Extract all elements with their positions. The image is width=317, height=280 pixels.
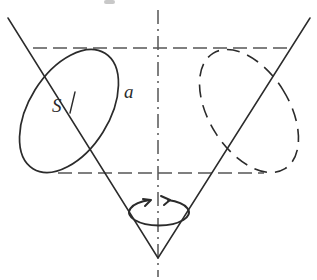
label-a: a bbox=[124, 82, 134, 101]
cone-rotation-diagram bbox=[0, 0, 317, 280]
label-s: S bbox=[52, 96, 62, 115]
rotation-arrow-left-arc bbox=[129, 200, 189, 225]
figure-container: S a bbox=[0, 0, 317, 280]
hidden-cross-section-ellipse bbox=[179, 32, 317, 190]
s-dimension-tick-icon bbox=[70, 92, 75, 113]
rotation-arrow-head-right-icon bbox=[161, 196, 170, 205]
rotation-arrow-head-left-icon bbox=[143, 199, 151, 206]
cone-left-generatrix bbox=[8, 18, 158, 258]
visible-cross-section-ellipse bbox=[0, 32, 139, 190]
